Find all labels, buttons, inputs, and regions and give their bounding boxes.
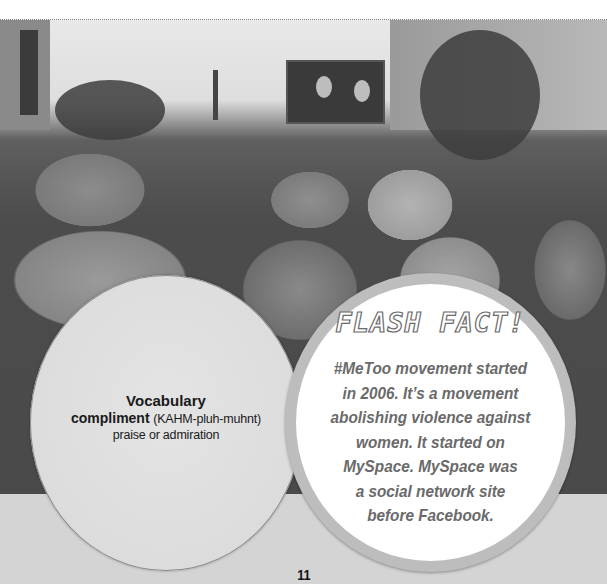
vocabulary-heading: Vocabulary: [30, 391, 302, 410]
screen-face: [354, 80, 370, 102]
flash-fact-body: #MeToo movement started in 2006. It’s a …: [317, 357, 545, 529]
flash-fact-line: women. It started on: [317, 431, 545, 456]
vocabulary-entry: compliment (KAHM-pluh-muhnt): [30, 410, 302, 427]
flash-fact-circle: FLASH FACT! #MeToo movement started in 2…: [285, 273, 576, 572]
vocabulary-content: Vocabulary compliment (KAHM-pluh-muhnt) …: [30, 391, 302, 443]
flash-fact-line: before Facebook.: [317, 504, 545, 529]
pole: [213, 70, 218, 120]
book-page: Vocabulary compliment (KAHM-pluh-muhnt) …: [0, 0, 607, 584]
vocabulary-word: compliment: [71, 410, 150, 426]
flash-fact-line: abolishing violence against: [317, 406, 545, 431]
flash-fact-inner: FLASH FACT! #MeToo movement started in 2…: [296, 284, 565, 561]
vocabulary-circle: Vocabulary compliment (KAHM-pluh-muhnt) …: [30, 275, 302, 571]
vocabulary-definition: praise or admiration: [30, 427, 302, 443]
flash-fact-line: in 2006. It’s a movement: [317, 382, 545, 407]
flash-fact-line: a social network site: [317, 480, 545, 505]
flash-fact-line: #MeToo movement started: [317, 357, 545, 382]
video-screen: [286, 60, 385, 124]
top-dotted-rule: [0, 19, 607, 20]
screen-face: [316, 76, 332, 98]
tree-right: [420, 30, 540, 160]
left-building: [0, 20, 50, 130]
page-number: 11: [297, 566, 310, 583]
vocabulary-pronunciation: (KAHM-pluh-muhnt): [153, 412, 261, 426]
tree-left: [55, 80, 165, 140]
flash-fact-line: MySpace. MySpace was: [317, 455, 545, 480]
flash-fact-title: FLASH FACT!: [296, 307, 565, 338]
building-banner: [20, 30, 38, 115]
